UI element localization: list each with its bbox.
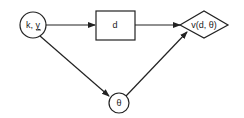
node-chance: θ — [109, 93, 129, 113]
node-value: v(d, θ) — [180, 11, 228, 38]
edge-input-to-chance — [40, 36, 109, 96]
value-label: v(d, θ) — [191, 20, 217, 30]
chance-label: θ — [116, 98, 121, 108]
input-label: k, — [26, 20, 36, 30]
node-decision: d — [96, 11, 135, 40]
input-label-y: y — [36, 20, 41, 30]
influence-diagram: k, y d v(d, θ) θ — [0, 0, 244, 118]
svg-text:k, y: k, y — [26, 20, 41, 30]
decision-label: d — [112, 20, 117, 30]
edge-chance-to-value — [126, 32, 187, 96]
node-input: k, y — [20, 12, 46, 38]
